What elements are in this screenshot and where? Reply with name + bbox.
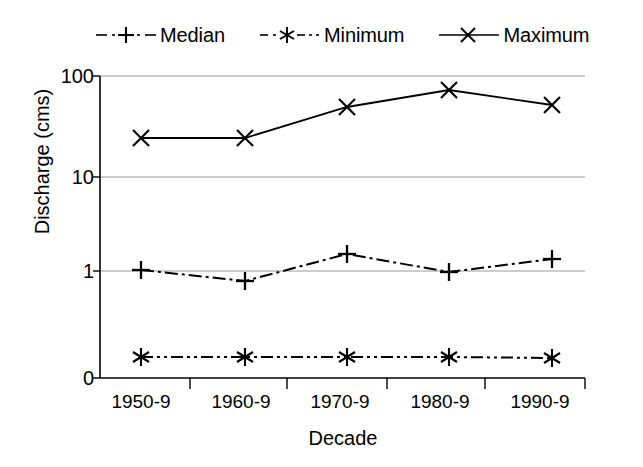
x-tick-label-1950-9: 1950-9: [91, 392, 191, 411]
series-median: [132, 245, 561, 290]
chart-figure: Median Minimum: [0, 0, 643, 467]
x-tick-label-1970-9: 1970-9: [290, 392, 390, 411]
series-median-markers: [132, 245, 561, 290]
series-maximum-markers: [133, 82, 560, 146]
x-axis-title: Decade: [100, 427, 586, 450]
x-tick-label-1990-9: 1990-9: [490, 392, 590, 411]
series-minimum: [133, 348, 560, 367]
x-tick-label-1980-9: 1980-9: [390, 392, 490, 411]
axis-lines: [93, 76, 585, 389]
series-maximum: [133, 82, 560, 146]
x-tick-label-1960-9: 1960-9: [191, 392, 291, 411]
gridlines: [100, 76, 585, 271]
